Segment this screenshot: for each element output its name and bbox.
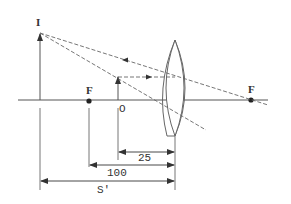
ray-arrow-1 bbox=[122, 58, 128, 63]
label-dim-s-prime: S' bbox=[97, 184, 110, 196]
label-image: I bbox=[36, 16, 40, 28]
focal-point-left bbox=[86, 98, 91, 103]
label-focal-right: F bbox=[248, 83, 255, 95]
label-dim-100: 100 bbox=[107, 167, 127, 179]
ray-through-focus bbox=[40, 33, 268, 105]
label-object: O bbox=[119, 103, 126, 115]
label-focal-left: F bbox=[86, 84, 93, 96]
ray-diagram: I F F O 25 100 S' bbox=[0, 0, 291, 204]
ray-arrow-2 bbox=[146, 75, 152, 80]
label-dim-25: 25 bbox=[138, 152, 151, 164]
